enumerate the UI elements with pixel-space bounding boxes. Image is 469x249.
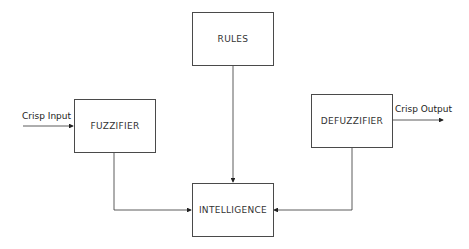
defuzzifier-to-intelligence-arrow [274,147,352,210]
crisp-output-label: Crisp Output [395,104,452,114]
fuzzifier-label: FUZZIFIER [90,121,139,131]
crisp-input-label: Crisp Input [22,111,71,121]
rules-box: RULES [192,12,274,66]
fuzzifier-box: FUZZIFIER [74,99,156,153]
fuzzifier-to-intelligence-arrow [114,152,191,210]
fuzzy-system-diagram: RULES FUZZIFIER DEFUZZIFIER INTELLIGENCE… [0,0,469,249]
defuzzifier-box: DEFUZZIFIER [311,94,393,148]
rules-label: RULES [218,34,249,44]
intelligence-label: INTELLIGENCE [199,205,267,215]
defuzzifier-label: DEFUZZIFIER [321,116,383,126]
intelligence-box: INTELLIGENCE [192,183,274,237]
